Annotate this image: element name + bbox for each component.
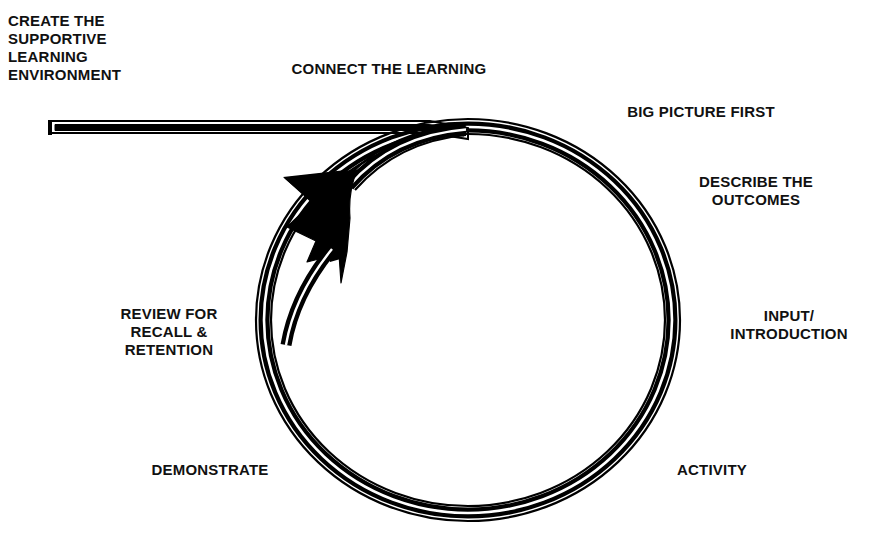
arrowhead-shaft [286, 249, 332, 345]
entry-bar-left-cap [48, 120, 52, 135]
cycle-arrowhead-icon [283, 170, 357, 345]
label-describe-the-outcomes: DESCRIBE THE OUTCOMES [656, 173, 856, 209]
label-create-supportive-learning-environment: CREATE THE SUPPORTIVE LEARNING ENVIRONME… [8, 12, 178, 84]
label-demonstrate: DEMONSTRATE [110, 461, 310, 479]
diagram-canvas: CREATE THE SUPPORTIVE LEARNING ENVIRONME… [0, 0, 877, 539]
label-big-picture-first: BIG PICTURE FIRST [576, 103, 826, 121]
label-activity: ACTIVITY [632, 461, 792, 479]
label-input-introduction: INPUT/ INTRODUCTION [704, 307, 874, 343]
label-review-for-recall-and-retention: REVIEW FOR RECALL & RETENTION [84, 305, 254, 359]
label-connect-the-learning: CONNECT THE LEARNING [244, 60, 534, 78]
